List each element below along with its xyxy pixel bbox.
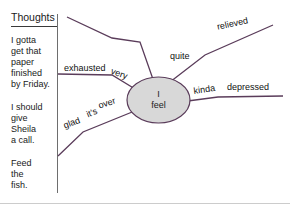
label-exhausted[interactable]: exhausted — [64, 63, 106, 73]
branch-line-kinda-depressed[interactable] — [180, 96, 283, 102]
branch-line-glad-its-over[interactable] — [58, 108, 142, 156]
mindmap-screenshot: Thoughts I gotta get that paper finished… — [0, 0, 290, 208]
node-text-line2: feel — [128, 100, 189, 111]
label-quite[interactable]: quite — [170, 51, 190, 61]
label-depressed[interactable]: depressed — [227, 82, 269, 92]
node-text-line1: I — [128, 89, 189, 100]
i-feel-node-label[interactable]: I feel — [128, 89, 189, 111]
